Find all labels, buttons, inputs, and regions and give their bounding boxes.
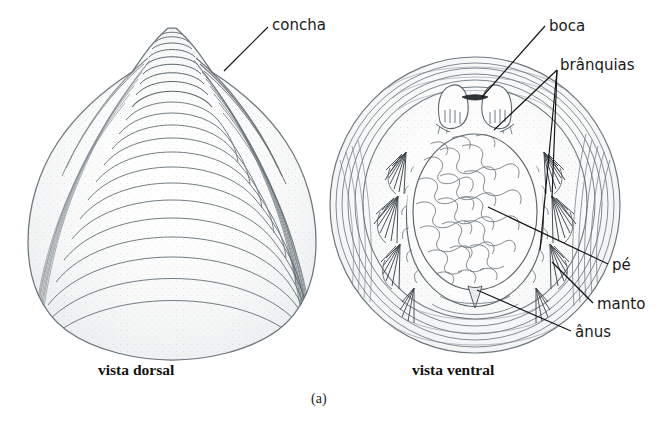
- figure-subcaption: (a): [311, 392, 327, 406]
- leader-pe: [488, 207, 608, 264]
- label-anus: ânus: [575, 325, 611, 340]
- caption-vista-ventral: vista ventral: [412, 362, 494, 378]
- leader-boca: [482, 26, 545, 97]
- leader-branquias-1: [494, 70, 557, 130]
- label-manto: manto: [597, 297, 645, 312]
- label-branquias: brânquias: [560, 58, 635, 73]
- leader-lines: [224, 26, 608, 331]
- leader-manto: [552, 262, 593, 303]
- leader-branquias-2: [552, 70, 557, 198]
- label-boca: boca: [549, 19, 585, 34]
- caption-vista-dorsal: vista dorsal: [98, 362, 174, 378]
- ventral-view-drawing: [330, 57, 622, 356]
- label-pe: pé: [612, 258, 631, 273]
- bivalve-anatomy-figure: concha boca brânquias pé manto ânus vist…: [0, 0, 670, 446]
- dorsal-shell-drawing: [20, 20, 330, 374]
- leader-concha: [224, 27, 268, 71]
- gill-tufts-right: [536, 152, 576, 323]
- leader-branquias-3: [540, 70, 557, 250]
- anus-notch: [468, 286, 482, 308]
- mouth-region: [436, 85, 514, 144]
- leader-anus: [477, 290, 571, 331]
- gill-tufts-left: [374, 152, 414, 323]
- foot-organ: [407, 128, 543, 302]
- label-concha: concha: [272, 18, 326, 33]
